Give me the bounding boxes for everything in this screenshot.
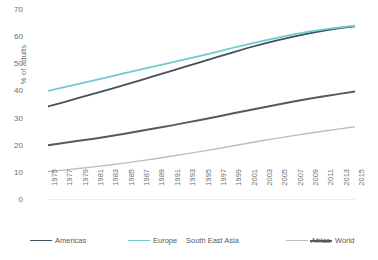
x-tick-label: 2005 — [281, 169, 289, 203]
legend-item-americas[interactable]: Americas — [30, 237, 86, 245]
legend-swatch-world-icon — [310, 240, 332, 242]
x-tick-label: 1975 — [51, 169, 59, 203]
x-tick-label: 1981 — [97, 169, 105, 203]
series-line-europe — [48, 26, 355, 91]
x-tick-label: 2001 — [251, 169, 259, 203]
legend-swatch-europe-icon — [128, 240, 150, 241]
x-tick-label: 1989 — [158, 169, 166, 203]
x-tick-label: 2013 — [343, 169, 351, 203]
x-tick-label: 2003 — [266, 169, 274, 203]
series-line-world — [48, 91, 355, 145]
x-tick-label: 1993 — [189, 169, 197, 203]
legend-item-world[interactable]: World — [310, 237, 354, 245]
series-canvas — [48, 10, 355, 200]
x-tick-label: 2015 — [358, 169, 366, 203]
y-tick-label: 20 — [3, 142, 23, 150]
x-tick-label: 1987 — [143, 169, 151, 203]
x-tick-label: 1983 — [112, 169, 120, 203]
legend-swatch-americas-icon — [30, 240, 52, 241]
series-line-africa — [48, 127, 355, 172]
x-tick-label: 1995 — [205, 169, 213, 203]
x-tick-label: 1997 — [220, 169, 228, 203]
legend-swatch-africa-icon — [286, 240, 308, 241]
x-tick-label: 2011 — [327, 169, 335, 203]
legend-item-europe[interactable]: Europe — [128, 237, 177, 245]
x-tick-label: 1979 — [82, 169, 90, 203]
y-tick-label: 0 — [3, 196, 23, 204]
y-tick-label: 40 — [3, 87, 23, 95]
y-tick-label: 30 — [3, 115, 23, 123]
x-tick-label: 1977 — [66, 169, 74, 203]
y-tick-label: 60 — [3, 33, 23, 41]
x-tick-label: 2007 — [297, 169, 305, 203]
legend-label: Europe — [153, 237, 177, 245]
legend-item-south-east-asia[interactable]: South East Asia — [186, 237, 242, 245]
legend-label: Americas — [55, 237, 86, 245]
y-tick-label: 70 — [3, 6, 23, 14]
y-tick-label: 50 — [3, 60, 23, 68]
x-tick-label: 1985 — [128, 169, 136, 203]
y-tick-label: 10 — [3, 169, 23, 177]
x-tick-label: 1991 — [174, 169, 182, 203]
x-tick-label: 1999 — [235, 169, 243, 203]
series-line-americas — [48, 26, 355, 106]
legend-label: South East Asia — [186, 237, 239, 245]
chart-legend: AmericasEuropeSouth East AsiaAfricaWorld — [0, 237, 378, 251]
plot-area — [48, 10, 355, 200]
line-chart: % of adults 010203040506070 197519771979… — [0, 0, 378, 260]
x-tick-label: 2009 — [312, 169, 320, 203]
legend-label: World — [335, 237, 354, 245]
